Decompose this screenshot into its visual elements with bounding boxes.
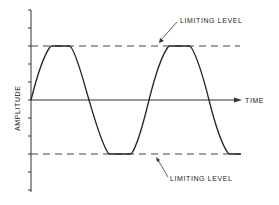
- clipped-waveform-diagram: AMPLITUDE TIME LIMITING LEVEL LIMITING L…: [0, 0, 279, 205]
- x-axis-label: TIME: [245, 97, 264, 104]
- lower-limiting-level-label: LIMITING LEVEL: [170, 175, 232, 182]
- time-axis: [31, 98, 242, 103]
- lower-label-leader-line: [158, 160, 168, 177]
- upper-limiting-level-label: LIMITING LEVEL: [180, 17, 242, 24]
- upper-label-leader-line: [161, 22, 177, 40]
- arrow-head-icon: [234, 98, 242, 103]
- y-axis-label: AMPLITUDE: [14, 86, 21, 131]
- amplitude-axis: [28, 10, 31, 192]
- lower-leader-arrow-icon: [156, 157, 160, 162]
- upper-leader-arrow-icon: [159, 38, 164, 43]
